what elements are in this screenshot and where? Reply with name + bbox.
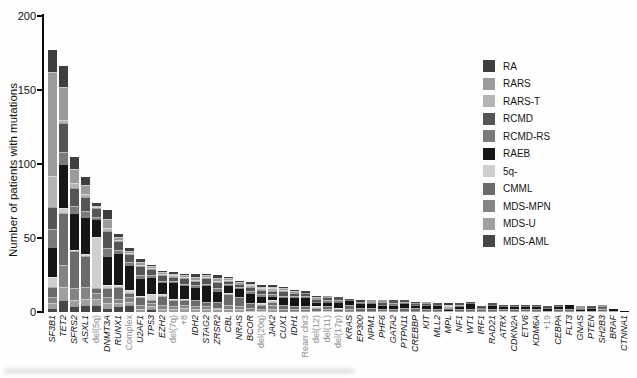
bar-segment-MDS-AML (334, 311, 343, 312)
x-axis-label-+19: +19 (542, 315, 553, 371)
bar-segment-CMML (235, 297, 244, 306)
y-tick-mark (37, 311, 43, 313)
bar-SH2B3 (598, 305, 607, 312)
bar-del(20q) (257, 285, 266, 312)
x-axis-label-CTNNA1: CTNNA1 (619, 315, 630, 371)
legend-swatch-RAEB (483, 148, 495, 160)
bar-segment-MDS-AML (235, 311, 244, 312)
bar-segment-RAEB (257, 296, 266, 303)
bar-segment-RARS-T (48, 176, 57, 207)
bar-segment-RA (59, 66, 68, 87)
bar-segment-MDS-AML (488, 311, 497, 312)
x-axis-label-FLT3: FLT3 (564, 315, 575, 371)
x-axis-label-del(20q): del(20q) (256, 315, 267, 371)
legend-label: RARS-T (503, 96, 540, 107)
bar-segment-RAEB (213, 291, 222, 301)
bar-segment-MDS-U (257, 311, 266, 312)
bar-segment-RCMD-RS (48, 229, 57, 247)
bar-segment-CMML (543, 311, 552, 312)
bar-segment-MDS-AML (59, 300, 68, 312)
bar-segment-MDS-AML (290, 311, 299, 312)
bar-del(5q) (92, 203, 101, 312)
bar-segment-RARS (103, 219, 112, 228)
legend-label: RA (503, 61, 517, 72)
bar-del(11) (323, 296, 332, 312)
bar-segment-MDS-MPN (81, 287, 90, 299)
bar-PTPN11 (400, 300, 409, 312)
bar-segment-RAEB (279, 297, 288, 304)
bar-del(12) (312, 296, 321, 312)
bar-segment-CMML (576, 311, 585, 312)
bar-segment-RCMD (136, 266, 145, 275)
bar-segment-MDS-MPN (59, 265, 68, 287)
x-axis-label-U2AF1: U2AF1 (135, 315, 146, 371)
bar-segment-CMML (158, 296, 167, 305)
bar-segment-RCMD-RS (103, 248, 112, 255)
bar-segment-MDS-AML (433, 311, 442, 312)
bar-CBL (224, 277, 233, 312)
x-axis-label-CUX1: CUX1 (278, 315, 289, 371)
bar-GATA2 (389, 300, 398, 312)
bar-segment-RARS (70, 169, 79, 184)
bar-segment-MDS-AML (136, 311, 145, 312)
x-axis-label-SF3B1: SF3B1 (47, 315, 58, 371)
legend-swatch-RCMD-RS (483, 130, 495, 142)
x-axis-label-ETV6: ETV6 (520, 315, 531, 371)
bar-segment-MDS-AML (158, 311, 167, 312)
bar-segment-MDS-AML (356, 311, 365, 312)
bar-segment-MDS-AML (147, 309, 156, 312)
x-axis-label-GNAS: GNAS (575, 315, 586, 371)
legend-swatch-RARS-T (483, 95, 495, 107)
bar-segment-MDS-AML (103, 308, 112, 312)
bar-segment-MDS-AML (389, 311, 398, 312)
bar-segment-RA (103, 210, 112, 219)
x-axis-label-KDM6A: KDM6A (531, 315, 542, 371)
x-axis-label-DNMT3A: DNMT3A (102, 315, 113, 371)
bar-segment-MDS-U (499, 311, 508, 312)
bar-del(17p) (334, 297, 343, 312)
bar-segment-RAEB (103, 256, 112, 286)
x-axis-label-ASXL1: ASXL1 (80, 315, 91, 371)
x-axis-label-del(17p): del(17p) (333, 315, 344, 371)
bar-segment-MDS-AML (301, 311, 310, 312)
x-axis-label-MPL: MPL (443, 315, 454, 371)
bar-PTEN (587, 306, 596, 312)
bar-segment-RAEB (158, 282, 167, 294)
bar-RAD21 (488, 303, 497, 312)
y-tick-mark (37, 163, 43, 165)
x-axis-label-KRAS: KRAS (344, 315, 355, 371)
bar-segment-MDS-AML (565, 311, 574, 312)
bar-SFRS2 (70, 157, 79, 312)
x-axis-label-NRAS: NRAS (234, 315, 245, 371)
bar-segment-CMML (136, 297, 145, 304)
bar-segment-MDS-AML (532, 311, 541, 312)
legend-item-RARS-T: RARS-T (483, 95, 551, 107)
legend-label: CMML (503, 183, 532, 194)
bar-ASXL1 (81, 177, 90, 312)
bar-CTNNA1 (620, 311, 629, 312)
bar-segment-CMML (587, 311, 596, 312)
bar-segment-MDS-AML (81, 305, 90, 312)
bar-CREBBP (411, 302, 420, 312)
bar-BCOR (246, 282, 255, 312)
x-axis-label-BRAF: BRAF (608, 315, 619, 371)
x-axis-label-WT1: WT1 (465, 315, 476, 371)
legend-item-CMML: CMML (483, 183, 551, 195)
x-axis-label-NF1: NF1 (454, 315, 465, 371)
bar-KRAS (345, 299, 354, 312)
bar-segment-MDS-MPN (378, 311, 387, 312)
bar-segment-MDS-AML (92, 305, 101, 312)
x-axis-label-CBL: CBL (223, 315, 234, 371)
bar-Rearr chr3 (301, 291, 310, 312)
bar-segment-MDS-AML (70, 306, 79, 312)
x-axis-label-PHF6: PHF6 (377, 315, 388, 371)
legend-swatch-RARS (483, 78, 495, 90)
legend-item-RAEB: RAEB (483, 148, 551, 160)
y-tick-mark (37, 89, 43, 91)
bar-segment-RAEB (202, 285, 211, 301)
bar-IDH1 (290, 290, 299, 312)
x-axis-label-del(12): del(12) (311, 315, 322, 371)
legend-swatch-MDS-MPN (483, 200, 495, 212)
bar-ZRSR2 (213, 275, 222, 312)
x-axis-label-del(5q): del(5q) (91, 315, 102, 371)
